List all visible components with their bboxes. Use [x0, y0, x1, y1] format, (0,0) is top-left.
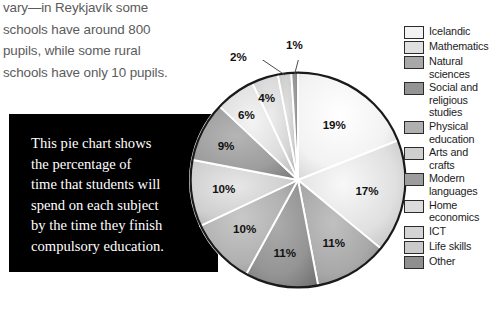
legend-label-line: Physical	[429, 120, 474, 133]
legend-label-line: Arts and	[429, 146, 468, 159]
caption-line: spend on each subject	[31, 195, 211, 216]
pie-slice-label: 11%	[274, 246, 297, 259]
caption-line: the percentage of	[31, 154, 211, 175]
caption-line: compulsory education.	[31, 236, 211, 257]
body-line: vary—in Reykjavík some	[3, 0, 208, 19]
legend-label-line: Icelandic	[429, 25, 470, 38]
pie-slice-label: 6%	[238, 108, 255, 121]
legend-item[interactable]: ICT	[404, 225, 496, 239]
legend-label-line: Life skills	[429, 240, 471, 253]
legend-label-line: sciences	[429, 68, 470, 81]
pie-slice-label: 11%	[322, 236, 345, 249]
legend-item-label: Modernlanguages	[429, 172, 477, 197]
pie-slice-label: 9%	[218, 139, 235, 152]
pie-chart-svg	[186, 60, 412, 302]
legend-label-line: economics	[429, 211, 479, 224]
legend-swatch-icon	[404, 121, 424, 134]
legend-item[interactable]: Physicaleducation	[404, 120, 496, 145]
legend-label-line: Home	[429, 199, 479, 212]
legend-item[interactable]: Social andreligiousstudies	[404, 81, 496, 119]
legend-item[interactable]: Naturalsciences	[404, 55, 496, 80]
legend-item-label: Social andreligiousstudies	[429, 81, 478, 119]
legend-item[interactable]: Icelandic	[404, 25, 496, 39]
legend-item-label: Other	[429, 255, 455, 268]
pie-slice-label: 10%	[212, 182, 235, 195]
caption-line: by the time they finish	[31, 215, 211, 236]
pie-slice-label: 4%	[258, 91, 275, 104]
legend-item-label: Homeeconomics	[429, 199, 479, 224]
legend-item-label: ICT	[429, 225, 446, 238]
screenshot-root: vary—in Reykjavík some schools have arou…	[0, 0, 496, 310]
legend-item[interactable]: Other	[404, 255, 496, 269]
legend-swatch-icon	[404, 26, 424, 39]
legend-item-label: Mathematics	[429, 40, 489, 53]
legend-item[interactable]: Arts andcrafts	[404, 146, 496, 171]
body-line: schools have around 800	[3, 19, 208, 41]
caption-line: time that students will	[31, 174, 211, 195]
legend-swatch-icon	[404, 41, 424, 54]
legend-item[interactable]: Life skills	[404, 240, 496, 254]
legend-label-line: Social and	[429, 81, 478, 94]
body-line: schools have only 10 pupils.	[3, 62, 208, 84]
legend-swatch-icon	[404, 226, 424, 239]
legend-item[interactable]: Modernlanguages	[404, 172, 496, 197]
pie-slice-label: 10%	[233, 222, 256, 235]
legend-swatch-icon	[404, 56, 424, 69]
legend-item-label: Icelandic	[429, 25, 470, 38]
legend-swatch-icon	[404, 256, 424, 269]
legend-item-label: Physicaleducation	[429, 120, 474, 145]
legend-item-label: Life skills	[429, 240, 471, 253]
pie-slice-label: 17%	[355, 184, 378, 197]
legend-swatch-icon	[404, 173, 424, 186]
legend-swatch-icon	[404, 241, 424, 254]
caption-text: This pie chart shows the percentage of t…	[31, 133, 211, 257]
pie-slice-label: 19%	[323, 118, 346, 131]
legend-label-line: Natural	[429, 55, 470, 68]
legend-item-label: Arts andcrafts	[429, 146, 468, 171]
legend-item[interactable]: Mathematics	[404, 40, 496, 54]
pie-slice-callout-label: 2%	[230, 50, 247, 63]
pie-slice-callout-label: 1%	[286, 38, 303, 51]
callout-leader-line	[248, 60, 285, 75]
legend-swatch-icon	[404, 82, 424, 95]
legend-label-line: Other	[429, 255, 455, 268]
legend-label-line: Modern	[429, 172, 477, 185]
legend-swatch-icon	[404, 200, 424, 213]
legend-swatch-icon	[404, 147, 424, 160]
legend-item-label: Naturalsciences	[429, 55, 470, 80]
legend-label-line: religious	[429, 94, 478, 107]
legend-label-line: ICT	[429, 225, 446, 238]
chart-legend: IcelandicMathematicsNaturalsciencesSocia…	[404, 25, 496, 270]
body-paragraph: vary—in Reykjavík some schools have arou…	[3, 0, 208, 83]
body-line: pupils, while some rural	[3, 40, 208, 62]
legend-label-line: studies	[429, 106, 478, 119]
caption-line: This pie chart shows	[31, 133, 211, 154]
legend-label-line: Mathematics	[429, 40, 489, 53]
legend-item[interactable]: Homeeconomics	[404, 199, 496, 224]
legend-label-line: crafts	[429, 159, 468, 172]
legend-label-line: education	[429, 133, 474, 146]
legend-label-line: languages	[429, 185, 477, 198]
pie-chart: 19%17%11%11%10%10%9%6%4%2%1%	[186, 60, 412, 302]
